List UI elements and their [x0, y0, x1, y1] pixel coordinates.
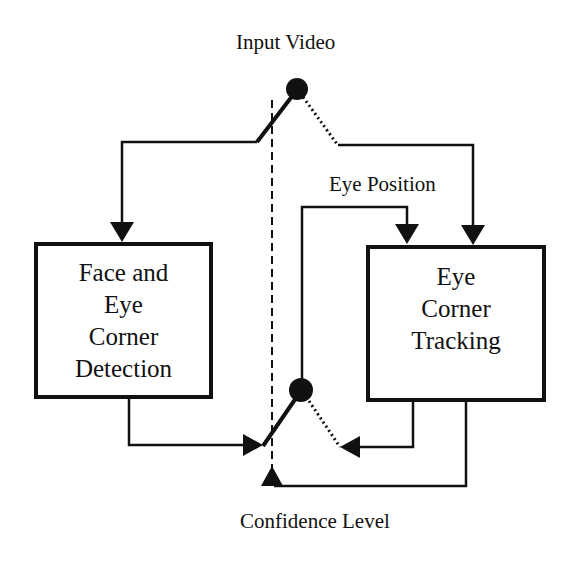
edge-confidence-level — [274, 401, 466, 486]
output-switch-active-lever — [263, 398, 296, 446]
arrowhead-confidence — [261, 466, 283, 486]
node-detection-label: Face and Eye Corner Detection — [75, 257, 172, 385]
edge-input-to-detection — [122, 142, 257, 222]
confidence-level-label: Confidence Level — [240, 509, 390, 534]
input-video-label: Input Video — [236, 30, 335, 55]
arrowhead-detection-in — [110, 222, 134, 242]
arrowhead-detection-output — [243, 434, 263, 456]
output-switch-inactive-lever — [309, 401, 340, 447]
node-tracking-label: Eye Corner Tracking — [411, 261, 500, 357]
input-switch-active-lever — [257, 95, 293, 142]
node-face-eye-corner-detection: Face and Eye Corner Detection — [34, 242, 213, 399]
eye-position-label: Eye Position — [329, 172, 436, 197]
arrowhead-tracking-output — [340, 436, 360, 458]
arrowhead-tracking-in — [461, 225, 485, 245]
edge-tracking-output — [360, 401, 413, 447]
arrowhead-eye-position — [395, 224, 419, 244]
output-switch-node — [289, 378, 313, 402]
edge-detection-output — [129, 398, 243, 445]
node-eye-corner-tracking: Eye Corner Tracking — [366, 245, 546, 402]
input-switch-inactive-lever — [303, 97, 337, 144]
